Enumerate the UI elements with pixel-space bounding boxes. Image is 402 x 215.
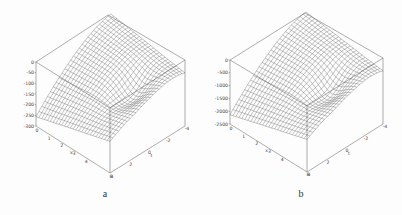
caption-b: b — [291, 188, 311, 199]
z-tick-label: -2000 — [215, 109, 228, 114]
t-tick-label: -2 — [166, 138, 171, 143]
t-tick-label: 2 — [129, 162, 132, 167]
surface-plot-b-graphic: 0-500-1000-1500-2000-2500 012346x420-2-4… — [201, 0, 402, 215]
t-tick-label: -2 — [364, 136, 369, 141]
x-tick-label: 2 — [60, 143, 63, 148]
t-tick-label: 4 — [308, 172, 311, 177]
t-tick-label: 4 — [111, 174, 114, 179]
t-tick-label: -4 — [383, 124, 388, 129]
t-axis-label: t — [151, 153, 153, 158]
x-tick-label: 0 — [36, 128, 39, 133]
caption-a: a — [95, 188, 115, 199]
surface-plot-a-graphic: 0-50-100-150-200-250-300 012346x420-2-4t — [0, 0, 201, 215]
x-tick-label: 3 — [268, 149, 271, 154]
z-tick-label: 0 — [225, 58, 228, 63]
z-tick-label: -100 — [24, 81, 35, 86]
z-tick-label: 0 — [31, 60, 34, 65]
x-tick-label: 1 — [48, 136, 51, 141]
t-tick-label: -4 — [185, 126, 190, 131]
x-tick-label: 4 — [281, 157, 284, 162]
surface-plot-b: 0-500-1000-1500-2000-2500 012346x420-2-4… — [201, 0, 402, 215]
z-tick-label: -500 — [218, 70, 229, 75]
z-tick-label: -250 — [24, 113, 35, 118]
surface-plot-a: 0-50-100-150-200-250-300 012346x420-2-4t… — [0, 0, 201, 215]
x-tick-label: 0 — [230, 126, 233, 131]
z-tick-label: -1500 — [215, 96, 228, 101]
z-tick-label: -2500 — [215, 122, 228, 127]
z-tick-label: -1000 — [215, 83, 228, 88]
x-axis-label: x — [70, 150, 73, 155]
t-axis-label: t — [348, 151, 350, 156]
z-tick-label: -150 — [24, 92, 35, 97]
x-tick-label: 3 — [73, 151, 76, 156]
z-tick-label: -50 — [26, 70, 34, 75]
x-axis-label: x — [265, 148, 268, 153]
x-tick-label: 4 — [85, 159, 88, 164]
z-tick-label: -300 — [24, 124, 35, 129]
x-tick-label: 2 — [255, 141, 258, 146]
z-tick-label: -200 — [24, 102, 35, 107]
x-tick-label: 1 — [242, 134, 245, 139]
t-tick-label: 2 — [327, 160, 330, 165]
